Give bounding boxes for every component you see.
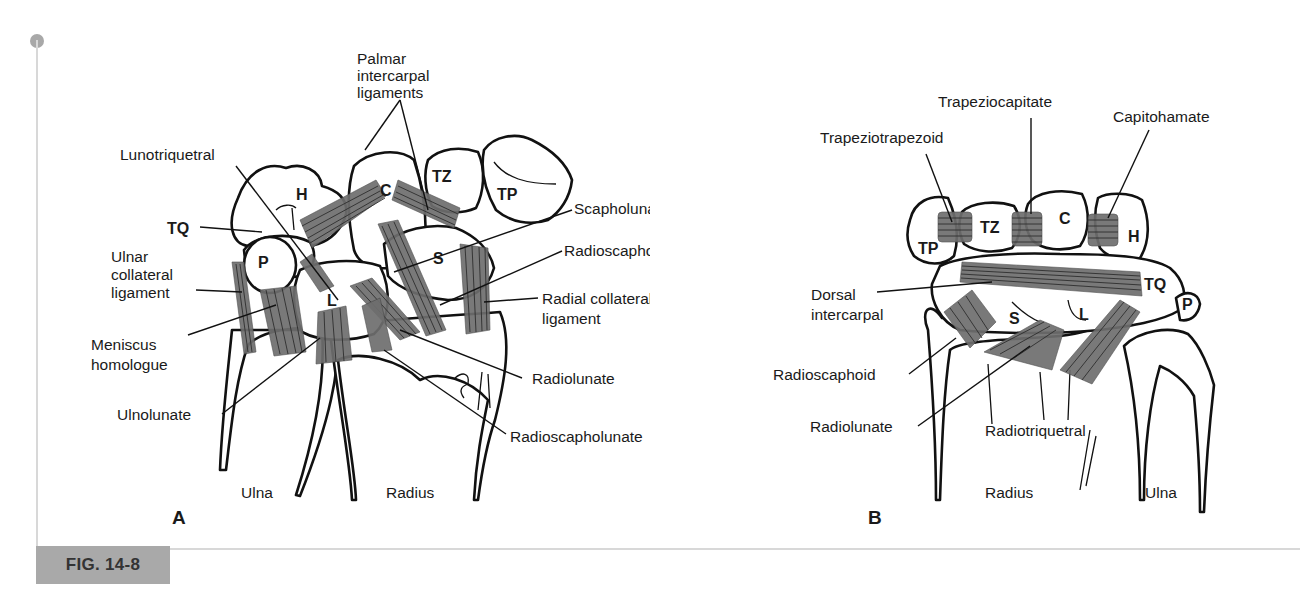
panel-letter-a: A — [172, 507, 186, 528]
bone-label-capitate: C — [380, 182, 392, 199]
label-palmar-intercarpal-2: intercarpal — [357, 67, 429, 84]
figure-frame-bottom-rule — [36, 548, 1300, 550]
figure-number-badge: FIG. 14-8 — [36, 546, 170, 584]
label-scapholunate: Scapholunate — [574, 200, 650, 217]
label-radiolunate-b: Radiolunate — [810, 418, 893, 435]
pisiform-bone-a — [244, 237, 296, 293]
label-palmar-intercarpal-3: ligaments — [357, 84, 424, 101]
label-radiotriquetral: Radiotriquetral — [985, 422, 1086, 439]
capitohamate-ligament — [1088, 214, 1118, 246]
label-radioscaphoid: Radioscaphoid — [773, 366, 876, 383]
label-radius-b: Radius — [985, 484, 1033, 501]
label-radioscaphocapitate: Radioscaphocapitate — [564, 242, 650, 259]
panel-a-palmar-wrist-diagram: H C TZ TP P L S Palmar intercarpal ligam… — [0, 0, 650, 540]
bone-label-trapezium-b: TP — [918, 240, 939, 257]
bone-label-pisiform: P — [258, 254, 269, 271]
label-palmar-intercarpal-1: Palmar — [357, 50, 406, 67]
bone-label-trapezoid: TZ — [432, 168, 452, 185]
ulnolunate-ligament-a — [316, 306, 352, 364]
label-ulnar-collateral-1: Ulnar — [111, 248, 148, 265]
bone-label-hamate-b: H — [1128, 228, 1140, 245]
label-ulnolunate: Ulnolunate — [117, 406, 191, 423]
label-ulna-a: Ulna — [241, 484, 273, 501]
bone-label-pisiform-b: P — [1182, 296, 1193, 313]
panel-letter-b: B — [868, 507, 882, 528]
bone-label-lunate: L — [327, 292, 337, 309]
label-meniscus-2: homologue — [91, 356, 168, 373]
radius-bone-a — [330, 312, 506, 500]
label-radius-a: Radius — [386, 484, 434, 501]
trapeziocapitate-ligament — [1012, 212, 1042, 246]
label-capitohamate: Capitohamate — [1113, 108, 1210, 125]
bone-label-capitate-b: C — [1059, 210, 1071, 227]
label-meniscus-1: Meniscus — [91, 336, 157, 353]
label-radiolunate: Radiolunate — [532, 370, 615, 387]
label-radial-collateral-1: Radial collateral — [542, 290, 650, 307]
bone-label-hamate: H — [296, 186, 308, 203]
trapeziotrapezoid-ligament — [938, 212, 972, 242]
label-dorsal-intercarpal-2: intercarpal — [811, 306, 883, 323]
panel-b-dorsal-wrist-diagram: TP TZ C H TQ P S L Trapeziotrapezoid Tra… — [650, 0, 1300, 540]
label-triquetrum-tq: TQ — [167, 220, 189, 237]
bone-label-trapezium: TP — [497, 186, 518, 203]
label-lunotriquetral: Lunotriquetral — [120, 146, 215, 163]
label-trapeziocapitate: Trapeziocapitate — [938, 93, 1052, 110]
bone-label-scaphoid-b: S — [1009, 310, 1020, 327]
bone-label-triquetrum-b: TQ — [1144, 276, 1166, 293]
label-ulnar-collateral-3: ligament — [111, 284, 170, 301]
label-trapeziotrapezoid: Trapeziotrapezoid — [820, 129, 944, 146]
bone-label-trapezoid-b: TZ — [980, 219, 1000, 236]
trapezium-bone-a — [483, 136, 572, 223]
label-dorsal-intercarpal-1: Dorsal — [811, 286, 856, 303]
label-radial-collateral-2: ligament — [542, 310, 601, 327]
label-ulna-b: Ulna — [1145, 484, 1177, 501]
bone-label-lunate-b: L — [1079, 306, 1089, 323]
label-ulnar-collateral-2: collateral — [111, 266, 173, 283]
label-radioscapholunate: Radioscapholunate — [510, 428, 643, 445]
